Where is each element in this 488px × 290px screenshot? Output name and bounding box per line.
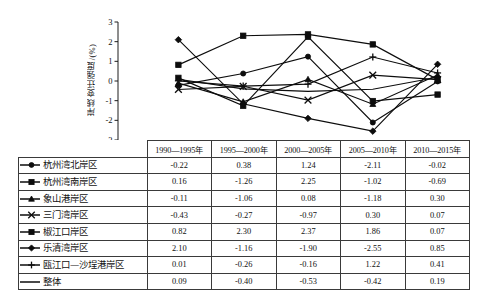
data-point	[241, 33, 246, 38]
data-cell: -1.06	[212, 190, 277, 207]
table-row: 杭州湾南岸区0.16-1.262.25-1.02-0.69	[19, 174, 470, 191]
data-cell: -1.16	[212, 240, 277, 257]
legend-label: 杭州湾南岸区	[43, 176, 97, 188]
y-tick-label: 3	[108, 17, 112, 27]
data-cell: 1.86	[341, 223, 406, 240]
y-tick-label: 1	[108, 56, 112, 66]
column-header-2: 1995—2000年	[212, 141, 277, 158]
data-cell: 0.09	[147, 273, 212, 290]
data-cell: -0.22	[147, 157, 212, 174]
table-row: 整体0.09-0.40-0.53-0.420.19	[19, 273, 470, 290]
data-table: 1990—1995年1995—2000年2000—2005年2005—2010年…	[18, 140, 470, 290]
legend-cell-8[interactable]: 整体	[19, 273, 148, 290]
data-cell: 0.41	[405, 257, 470, 274]
data-cell: -0.26	[212, 257, 277, 274]
table-row: 三门湾岸区-0.43-0.27-0.970.300.07	[19, 207, 470, 224]
legend-cell-7[interactable]: 瓯江口—沙埕港岸区	[19, 257, 148, 274]
data-cell: -0.69	[405, 174, 470, 191]
data-cell: 0.19	[405, 273, 470, 290]
data-cell: -0.16	[276, 257, 341, 274]
data-cell: 0.30	[405, 190, 470, 207]
data-cell: 0.01	[147, 257, 212, 274]
data-point	[434, 69, 441, 76]
table-header-row: 1990—1995年1995—2000年2000—2005年2005—2010年…	[19, 141, 470, 158]
legend-label: 椒江口岸区	[43, 226, 88, 238]
data-cell: -0.27	[212, 207, 277, 224]
data-cell: -2.55	[341, 240, 406, 257]
data-point	[369, 53, 376, 60]
cross-marker	[19, 209, 41, 221]
legend-cell-2[interactable]: 杭州湾南岸区	[19, 174, 148, 191]
y-tick-label: 2	[108, 37, 112, 47]
data-cell: 0.07	[405, 223, 470, 240]
line-chart: 岸线变迁强度/(%) 3210-1-2-3	[0, 0, 488, 140]
data-cell: 0.16	[147, 174, 212, 191]
legend-cell-1[interactable]: 杭州湾北岸区	[19, 157, 148, 174]
table-body: 杭州湾北岸区-0.220.381.24-2.11-0.02杭州湾南岸区0.16-…	[19, 157, 470, 290]
data-cell: -0.97	[276, 207, 341, 224]
table-row: 乐清湾岸区2.10-1.16-1.90-2.550.85	[19, 240, 470, 257]
series-markers	[175, 32, 441, 135]
legend-label: 整体	[43, 276, 61, 288]
data-cell: 2.30	[212, 223, 277, 240]
data-cell: -2.11	[341, 157, 406, 174]
data-cell: 0.07	[405, 207, 470, 224]
data-cell: -0.42	[341, 273, 406, 290]
legend-data-table: 1990—1995年1995—2000年2000—2005年2005—2010年…	[18, 140, 470, 290]
data-cell: -0.40	[212, 273, 277, 290]
data-point	[305, 115, 311, 121]
data-cell: -1.18	[341, 190, 406, 207]
legend-label: 乐清湾岸区	[43, 242, 88, 254]
y-tick-label: -1	[105, 96, 112, 106]
data-point	[305, 32, 310, 37]
data-point	[305, 54, 310, 59]
data-cell: -0.02	[405, 157, 470, 174]
column-header-4: 2005—2010年	[341, 141, 406, 158]
data-cell: -1.90	[276, 240, 341, 257]
data-cell: -0.53	[276, 273, 341, 290]
filled-square-marker	[19, 176, 41, 188]
data-cell: -1.02	[341, 174, 406, 191]
column-header-3: 2000—2005年	[276, 141, 341, 158]
column-header-1: 1990—1995年	[147, 141, 212, 158]
legend-cell-3[interactable]: 象山港岸区	[19, 190, 148, 207]
square-marker	[19, 226, 41, 238]
data-point	[176, 62, 181, 67]
circle-marker	[19, 159, 41, 171]
data-point	[435, 77, 440, 82]
table-corner-cell	[19, 141, 148, 158]
column-header-5: 2010—2015年	[405, 141, 470, 158]
data-cell: -0.11	[147, 190, 212, 207]
diamond-marker	[19, 242, 41, 254]
data-cell: 0.08	[276, 190, 341, 207]
legend-cell-5[interactable]: 椒江口岸区	[19, 223, 148, 240]
data-cell: 1.22	[341, 257, 406, 274]
legend-cell-4[interactable]: 三门湾岸区	[19, 207, 148, 224]
data-cell: 2.10	[147, 240, 212, 257]
data-cell: -0.43	[147, 207, 212, 224]
plus-marker	[19, 259, 41, 271]
triangle-marker	[19, 193, 41, 205]
y-tick-label: 0	[108, 76, 112, 86]
table-row: 象山港岸区-0.11-1.060.08-1.180.30	[19, 190, 470, 207]
data-cell: 2.25	[276, 174, 341, 191]
plain-line	[19, 276, 41, 288]
series-line-1	[178, 57, 437, 123]
legend-label: 三门湾岸区	[43, 209, 88, 221]
legend-label: 象山港岸区	[43, 193, 88, 205]
data-cell: 0.38	[212, 157, 277, 174]
data-point	[370, 120, 375, 125]
legend-cell-6[interactable]: 乐清湾岸区	[19, 240, 148, 257]
table-row: 瓯江口—沙埕港岸区0.01-0.26-0.161.220.41	[19, 257, 470, 274]
legend-label: 瓯江口—沙埕港岸区	[43, 259, 124, 271]
data-point	[241, 71, 246, 76]
data-cell: -1.26	[212, 174, 277, 191]
data-cell: 0.82	[147, 223, 212, 240]
plot-area: 3210-1-2-3	[0, 0, 488, 140]
data-point	[435, 92, 440, 97]
data-cell: 1.24	[276, 157, 341, 174]
data-cell: 2.37	[276, 223, 341, 240]
table-row: 椒江口岸区0.822.302.371.860.07	[19, 223, 470, 240]
data-cell: 0.85	[405, 240, 470, 257]
